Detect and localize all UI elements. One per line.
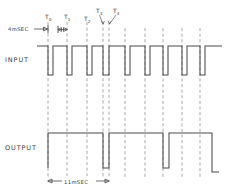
dimension-11msec-label: 11mSEC — [64, 179, 88, 185]
dimension-4msec-label: 4mSEC — [8, 26, 29, 32]
t2-subscript: 2 — [88, 19, 91, 24]
time-marker-t2: T2 — [83, 15, 91, 24]
time-marker-t0: T0 — [44, 13, 52, 22]
output-waveform — [48, 133, 219, 172]
t0-subscript: 0 — [49, 17, 52, 22]
time-marker-t1: T1 — [63, 13, 71, 22]
input-waveform — [37, 46, 222, 75]
t3-subscript: 3 — [100, 11, 103, 16]
leader-lines-group — [100, 15, 117, 24]
time-marker-t3: T3 — [95, 7, 103, 16]
timing-diagram-canvas: T0 T1 T2 T3 T4 4mSEC — [0, 0, 230, 191]
input-signal-label: INPUT — [5, 56, 29, 64]
t1-subscript: 1 — [68, 17, 71, 22]
dimension-4msec: 4mSEC — [8, 25, 48, 33]
t4-subscript: 4 — [117, 11, 120, 16]
output-signal-label: OUTPUT — [5, 144, 37, 152]
time-marker-t4: T4 — [112, 7, 120, 16]
gridlines-group — [48, 22, 200, 178]
dimension-period-bracket — [58, 26, 68, 33]
timing-diagram: T0 T1 T2 T3 T4 4mSEC — [0, 0, 230, 191]
leader-arrowhead-t4 — [108, 21, 111, 24]
dimension-11msec: 11mSEC — [48, 176, 110, 186]
